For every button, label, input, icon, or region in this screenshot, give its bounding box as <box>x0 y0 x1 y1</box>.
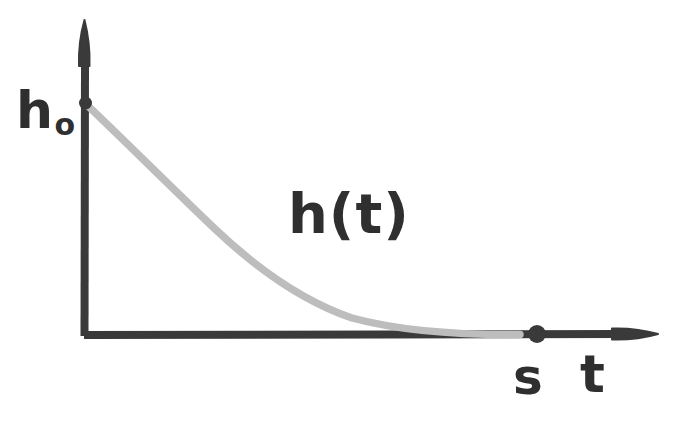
y-axis-arrowhead-icon <box>79 20 90 66</box>
curve-label: h(t) <box>288 186 410 242</box>
x-axis-arrowhead-icon <box>612 328 658 339</box>
s-point-marker <box>528 325 546 343</box>
h0-point-marker <box>79 97 92 110</box>
x-point-label: s <box>513 352 543 402</box>
y-intercept-label-subscript: o <box>55 107 76 142</box>
sketch-figure: ho h(t) s t <box>0 0 674 441</box>
y-intercept-label: ho <box>16 84 76 140</box>
y-intercept-label-base: h <box>16 80 54 140</box>
x-axis-label: t <box>580 348 605 400</box>
